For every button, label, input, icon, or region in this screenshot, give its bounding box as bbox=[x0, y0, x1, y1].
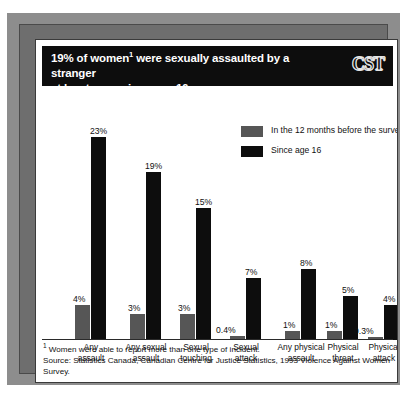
axis-baseline bbox=[42, 339, 393, 340]
bar-value-label: 3% bbox=[128, 303, 140, 313]
bar-value-label: 4% bbox=[73, 294, 85, 304]
bar-value-label: 19% bbox=[145, 161, 162, 171]
cst-logo: CST bbox=[352, 54, 384, 75]
bar-since bbox=[384, 305, 398, 340]
bar-value-label: 23% bbox=[90, 126, 107, 136]
title-banner: 19% of women1 were sexually assaulted by… bbox=[42, 46, 393, 86]
screenshot-page: 19% of women1 were sexually assaulted by… bbox=[0, 0, 407, 393]
bar-value-label: 8% bbox=[300, 258, 312, 268]
footnote-line: 1 Women were able to report more than on… bbox=[43, 344, 393, 355]
bar-value-label: 1% bbox=[325, 320, 337, 330]
footnote-text: Women were able to report more than one … bbox=[47, 345, 260, 354]
bar-since bbox=[196, 208, 211, 340]
title-line1-pre: 19% of women bbox=[51, 52, 129, 64]
bar-value-label: 4% bbox=[383, 294, 395, 304]
footnotes: 1 Women were able to report more than on… bbox=[43, 344, 393, 377]
chart-card: 19% of women1 were sexually assaulted by… bbox=[35, 39, 398, 383]
bar-since bbox=[146, 172, 161, 340]
inner-frame: 19% of women1 were sexually assaulted by… bbox=[19, 24, 388, 374]
bar-recent bbox=[180, 314, 195, 340]
bar-value-label: 15% bbox=[195, 197, 212, 207]
outer-frame: 19% of women1 were sexually assaulted by… bbox=[7, 13, 400, 385]
plot-area: 4%23%3%19%3%15%0.4%7%1%8%1%5%0.3%4% bbox=[42, 90, 393, 340]
bar-value-label: 5% bbox=[342, 285, 354, 295]
bar-value-label: 3% bbox=[178, 303, 190, 313]
bar-recent bbox=[130, 314, 145, 340]
bar-since bbox=[91, 137, 106, 340]
bar-value-label: 0.4% bbox=[216, 325, 236, 335]
bar-since bbox=[301, 269, 316, 340]
bar-value-label: 1% bbox=[283, 320, 295, 330]
bar-since bbox=[246, 278, 261, 340]
bar-recent bbox=[75, 305, 90, 340]
bar-value-label: 0.3% bbox=[354, 326, 374, 336]
source-line: Source: Statistics Canada, Canadian Cent… bbox=[43, 355, 393, 377]
bar-value-label: 7% bbox=[245, 267, 257, 277]
